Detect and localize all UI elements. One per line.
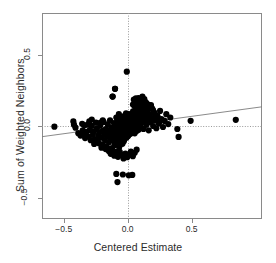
y-tick-label: −0.5 bbox=[16, 192, 33, 202]
data-point bbox=[80, 127, 86, 133]
data-point bbox=[124, 69, 130, 75]
data-point bbox=[91, 141, 97, 147]
data-point bbox=[112, 86, 118, 92]
data-point bbox=[188, 118, 194, 124]
data-point bbox=[71, 122, 77, 128]
data-point bbox=[167, 114, 173, 120]
data-point bbox=[114, 179, 120, 185]
x-tick-label: 0.5 bbox=[186, 224, 198, 234]
plot-canvas bbox=[0, 0, 276, 263]
data-point bbox=[51, 124, 57, 130]
data-point bbox=[113, 171, 119, 177]
data-point bbox=[160, 124, 166, 130]
data-point bbox=[103, 146, 109, 152]
y-tick-label-text: −0.5 bbox=[20, 189, 30, 206]
data-point bbox=[146, 127, 152, 133]
data-points-group bbox=[51, 69, 239, 186]
data-point bbox=[110, 93, 116, 99]
scatter-plot-figure: Centered Estimate Sum of Weighted Neighb… bbox=[0, 0, 276, 263]
data-point bbox=[233, 117, 239, 123]
y-tick-label: 0.5 bbox=[21, 49, 33, 59]
data-point bbox=[129, 172, 135, 178]
data-point bbox=[157, 119, 163, 125]
y-tick-label: 0.0 bbox=[21, 120, 33, 130]
data-point bbox=[97, 120, 103, 126]
data-point bbox=[134, 147, 140, 153]
data-point bbox=[174, 126, 180, 132]
data-point bbox=[89, 116, 95, 122]
y-tick-label-text: 0.5 bbox=[22, 48, 32, 60]
data-point bbox=[165, 121, 171, 127]
y-tick-label-text: 0.0 bbox=[22, 119, 32, 131]
data-point bbox=[120, 171, 126, 177]
x-axis-title: Centered Estimate bbox=[0, 241, 276, 253]
x-tick-label: 0.0 bbox=[122, 224, 134, 234]
x-tick-label: −0.5 bbox=[55, 224, 72, 234]
data-point bbox=[176, 134, 182, 140]
